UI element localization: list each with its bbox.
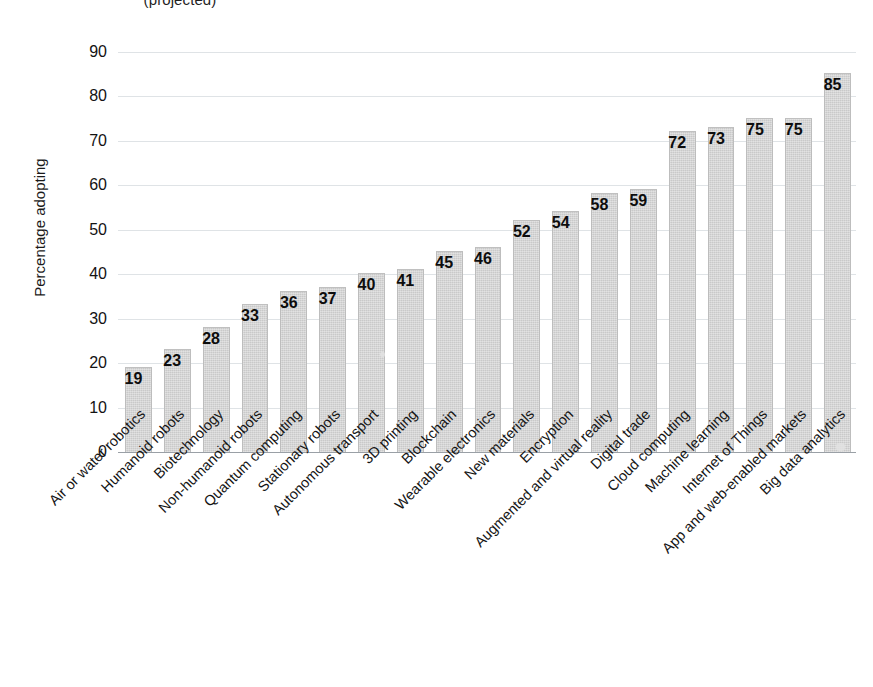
scan-artifact	[380, 352, 385, 357]
bar-series: 19232833363740414546525458597273757585	[118, 52, 856, 452]
bar-slot: 40	[351, 52, 390, 452]
bar-slot: 75	[739, 52, 778, 452]
bar[interactable]	[785, 118, 812, 452]
bar-chart-figure: (projected) Percentage adopting 01020304…	[0, 0, 873, 687]
chart-title: (projected)	[0, 0, 360, 8]
y-axis-title: Percentage adopting	[31, 118, 48, 338]
scan-artifact	[836, 443, 845, 451]
y-axis-tick-label: 60	[89, 176, 107, 194]
bar-slot: 85	[817, 52, 856, 452]
bar-slot: 36	[273, 52, 312, 452]
bar[interactable]	[708, 127, 735, 452]
y-axis-tick-label: 20	[89, 354, 107, 372]
bar-slot: 75	[778, 52, 817, 452]
bar-slot: 37	[312, 52, 351, 452]
plot-area: 0102030405060708090 19232833363740414546…	[118, 52, 856, 452]
y-axis-tick-label: 70	[89, 132, 107, 150]
bar-slot: 19	[118, 52, 157, 452]
bar-slot: 45	[429, 52, 468, 452]
bar-slot: 59	[623, 52, 662, 452]
y-axis-tick-label: 80	[89, 87, 107, 105]
bar-slot: 58	[584, 52, 623, 452]
bar-slot: 33	[235, 52, 274, 452]
bar[interactable]	[669, 131, 696, 452]
y-axis-tick-label: 30	[89, 310, 107, 328]
bar-slot: 54	[545, 52, 584, 452]
bar-slot: 46	[468, 52, 507, 452]
bar-slot: 23	[157, 52, 196, 452]
bar-slot: 72	[662, 52, 701, 452]
bar[interactable]	[824, 73, 851, 452]
bar-slot: 73	[701, 52, 740, 452]
y-axis-tick-label: 50	[89, 221, 107, 239]
bar-slot: 28	[196, 52, 235, 452]
bar[interactable]	[746, 118, 773, 452]
y-axis-tick-label: 90	[89, 43, 107, 61]
bar-slot: 52	[506, 52, 545, 452]
y-axis-tick-label: 40	[89, 265, 107, 283]
y-axis-tick-label: 10	[89, 399, 107, 417]
bar-slot: 41	[390, 52, 429, 452]
